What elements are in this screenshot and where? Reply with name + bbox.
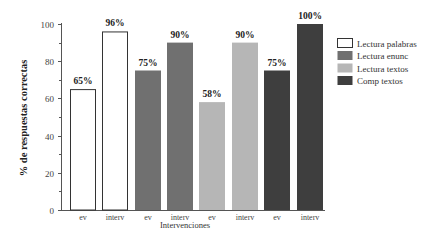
bar-lectura-enunc-interv [167, 43, 193, 210]
y-tick-label: 100 [41, 20, 55, 30]
bar-value-label: 75% [268, 58, 287, 68]
legend-item-label: Comp textos [357, 76, 403, 86]
x-axis-label: Intervenciones [160, 220, 210, 230]
bar-value-label: 65% [74, 76, 93, 86]
legend-swatch [338, 64, 353, 73]
legend-swatch [338, 76, 353, 85]
x-tick-label: ev [273, 213, 281, 222]
bar-value-label: 100% [298, 11, 322, 21]
bar-lectura-enunc-ev [135, 71, 161, 211]
bar-comp-textos-ev [264, 71, 290, 211]
bars-group: 65%96%75%90%58%90%75%100% [71, 11, 324, 210]
y-tick-label: 60 [45, 94, 55, 104]
bar-value-label: 75% [139, 58, 158, 68]
legend-item-label: Lectura enunc [357, 51, 408, 61]
y-ticks: 020406080100 [41, 20, 62, 216]
bar-chart: % de respuestas correctas 020406080100 6… [0, 0, 429, 237]
y-axis-label: % de respuestas correctas [18, 60, 29, 177]
legend: Lectura palabrasLectura enuncLectura tex… [338, 39, 418, 87]
x-tick-label: interv [106, 213, 125, 222]
bar-lectura-palabras-ev [71, 90, 96, 210]
y-tick-label: 20 [45, 169, 55, 179]
legend-item-label: Lectura palabras [357, 39, 417, 49]
bar-value-label: 90% [236, 30, 255, 40]
x-tick-label: ev [79, 213, 87, 222]
legend-swatch [338, 39, 353, 48]
legend-swatch [338, 51, 353, 60]
bar-lectura-textos-interv [232, 43, 258, 210]
y-tick-label: 80 [45, 57, 55, 67]
bar-lectura-palabras-interv [103, 32, 128, 210]
bar-value-label: 58% [203, 89, 222, 99]
x-tick-label: interv [301, 213, 320, 222]
y-tick-label: 40 [45, 132, 55, 142]
bar-comp-textos-interv [297, 24, 323, 210]
legend-item-label: Lectura textos [357, 64, 409, 74]
bar-lectura-textos-ev [199, 102, 225, 210]
bar-value-label: 90% [171, 30, 190, 40]
y-tick-label: 0 [50, 206, 55, 216]
x-tick-label: interv [236, 213, 255, 222]
bar-value-label: 96% [106, 18, 125, 28]
x-tick-label: ev [144, 213, 152, 222]
